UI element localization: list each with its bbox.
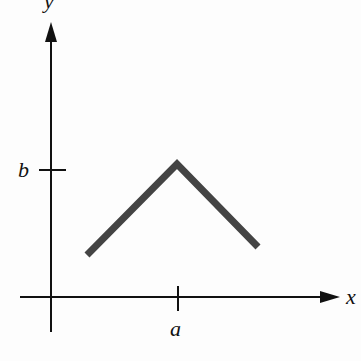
graph-svg (0, 0, 361, 361)
y-tick-label: b (18, 159, 29, 181)
x-axis-label: x (346, 286, 356, 308)
x-axis-arrow-icon (320, 291, 340, 303)
x-tick-label: a (170, 318, 181, 340)
y-axis-arrow-icon (45, 22, 57, 42)
curve (87, 164, 258, 255)
diagram-canvas: y x b a (0, 0, 361, 361)
y-axis-label: y (44, 0, 54, 12)
